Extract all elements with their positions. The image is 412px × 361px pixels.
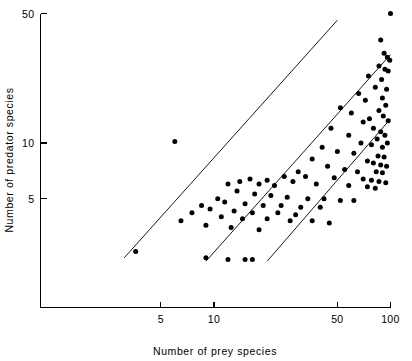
y-tick-label: 10: [22, 137, 34, 149]
data-point: [229, 225, 234, 230]
data-point: [310, 218, 315, 223]
data-point: [285, 195, 290, 200]
data-point: [265, 216, 270, 221]
data-point: [382, 155, 387, 160]
data-point: [203, 255, 208, 260]
data-point: [305, 196, 310, 201]
data-point: [225, 182, 230, 187]
data-point: [178, 218, 183, 223]
data-point: [215, 196, 220, 201]
lower-reference-line: [267, 119, 390, 261]
data-point: [382, 133, 387, 138]
data-point: [335, 149, 340, 154]
data-point: [371, 126, 376, 131]
data-point: [366, 73, 371, 78]
data-point: [374, 169, 379, 174]
data-point: [378, 129, 383, 134]
data-point: [387, 58, 392, 63]
y-tick-label: 5: [28, 193, 34, 205]
data-point: [361, 119, 366, 124]
data-point: [327, 221, 332, 226]
data-point: [257, 182, 262, 187]
data-point: [290, 179, 295, 184]
data-point: [296, 169, 301, 174]
data-point: [346, 133, 351, 138]
data-point: [268, 193, 273, 198]
data-point: [243, 257, 248, 262]
data-point: [369, 142, 374, 147]
data-point: [363, 98, 368, 103]
data-point: [219, 214, 224, 219]
data-point: [376, 154, 381, 159]
data-point: [314, 182, 319, 187]
data-point: [189, 210, 194, 215]
data-point: [383, 180, 388, 185]
data-point: [378, 163, 383, 168]
data-point: [237, 179, 242, 184]
data-point: [380, 145, 385, 150]
data-point: [384, 87, 389, 92]
data-point: [310, 156, 315, 161]
data-point: [349, 111, 354, 116]
data-point: [320, 145, 325, 150]
data-point: [199, 203, 204, 208]
axis-labels-group: Number of prey species Number of predato…: [3, 87, 277, 357]
data-point: [380, 95, 385, 100]
y-tick-label: 50: [22, 8, 34, 20]
data-point: [378, 37, 383, 42]
data-point: [365, 184, 370, 189]
data-point: [386, 68, 391, 73]
data-point: [322, 196, 327, 201]
data-point: [376, 64, 381, 69]
data-point: [371, 160, 376, 165]
data-point: [288, 218, 293, 223]
data-point: [275, 210, 280, 215]
data-point: [342, 167, 347, 172]
data-point: [232, 208, 237, 213]
data-point: [208, 207, 213, 212]
data-point: [383, 103, 388, 108]
data-point: [248, 176, 253, 181]
data-point: [361, 176, 366, 181]
data-point: [384, 164, 389, 169]
axes-group: 51050100 51050: [22, 8, 400, 325]
y-axis-title: Number of predator species: [3, 87, 15, 232]
data-point: [172, 139, 177, 144]
data-point: [250, 210, 255, 215]
middle-reference-line: [206, 55, 391, 262]
data-point: [279, 203, 284, 208]
data-point: [380, 170, 385, 175]
upper-reference-line: [124, 20, 337, 258]
data-point: [373, 186, 378, 191]
data-point: [325, 164, 330, 169]
y-axis-ticks: 51050: [22, 8, 46, 205]
data-point: [355, 169, 360, 174]
data-point: [376, 179, 381, 184]
x-tick-label: 50: [331, 313, 343, 325]
data-point: [318, 205, 323, 210]
data-point: [328, 126, 333, 131]
data-point: [382, 51, 387, 56]
data-point: [282, 174, 287, 179]
data-point: [293, 212, 298, 217]
data-point: [373, 85, 378, 90]
data-point: [332, 175, 337, 180]
data-point: [375, 137, 380, 142]
data-point: [351, 198, 356, 203]
data-point: [303, 174, 308, 179]
data-point: [365, 158, 370, 163]
data-point: [369, 178, 374, 183]
data-point: [222, 200, 227, 205]
data-point: [298, 205, 303, 210]
data-point: [388, 11, 393, 16]
data-point: [358, 141, 363, 146]
data-point: [385, 141, 390, 146]
data-point: [386, 118, 391, 123]
data-point: [261, 203, 266, 208]
data-point: [381, 113, 386, 118]
data-point: [235, 189, 240, 194]
data-point: [346, 183, 351, 188]
data-point: [338, 105, 343, 110]
scatter-plot-figure: 51050100 51050 Number of prey species Nu…: [0, 0, 412, 361]
x-tick-label: 100: [381, 313, 400, 325]
